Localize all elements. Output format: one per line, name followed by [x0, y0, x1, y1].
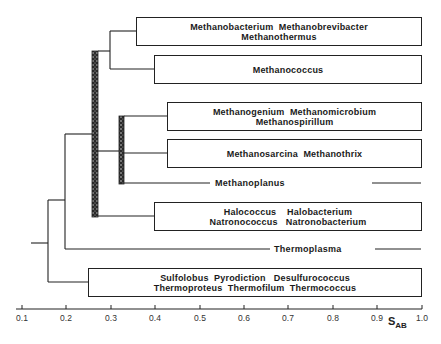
- leaf-label-methanoplanus: Methanoplanus: [211, 178, 289, 188]
- group-label-line: Halococcus Halobacterium: [224, 207, 352, 217]
- group-label-line: Methanothermus: [241, 32, 316, 42]
- group-label-line: Thermoproteus Thermofilum Thermococcus: [154, 283, 357, 293]
- axis-tick-label: 0.4: [149, 313, 161, 323]
- axis-tick-label: 0.1: [16, 313, 28, 323]
- axis-tick-label: 0.7: [282, 313, 294, 323]
- group-label-line: Methanococcus: [253, 65, 324, 75]
- axis-tick-label: 1.0: [416, 313, 428, 323]
- axis-tick-label: 0.5: [194, 313, 206, 323]
- axis-tick-label: 0.6: [238, 313, 250, 323]
- group-box-methanosarcina: Methanosarcina Methanothrix: [167, 139, 422, 168]
- group-box-sulfolobus: Sulfolobus Pyrodiction Desulfurococcus T…: [88, 268, 422, 297]
- axis-tick-label: 0.8: [327, 313, 339, 323]
- axis-title-subscript: AB: [395, 321, 407, 330]
- group-label-line: Natronococcus Natronobacterium: [210, 217, 367, 227]
- group-label-line: Sulfolobus Pyrodiction Desulfurococcus: [160, 273, 350, 283]
- group-box-halophiles: Halococcus Halobacterium Natronococcus N…: [154, 202, 422, 231]
- shaded-range-bar-minor: [119, 116, 124, 184]
- axis-title: SAB: [388, 315, 407, 330]
- group-label-line: Methanosarcina Methanothrix: [227, 149, 363, 159]
- leaf-label-thermoplasma: Thermoplasma: [270, 244, 346, 254]
- group-box-methanococcus: Methanococcus: [154, 55, 422, 84]
- group-box-methanogenium: Methanogenium Methanomicrobium Methanosp…: [167, 102, 422, 131]
- axis-tick-label: 0.9: [371, 313, 383, 323]
- shaded-range-bar-major: [92, 51, 98, 217]
- group-label-line: Methanobacterium Methanobrevibacter: [190, 22, 368, 32]
- group-label-line: Methanospirillum: [256, 117, 334, 127]
- axis-tick-label: 0.2: [60, 313, 72, 323]
- group-box-methanobacteria: Methanobacterium Methanobrevibacter Meth…: [136, 17, 422, 46]
- axis-tick-label: 0.3: [105, 313, 117, 323]
- group-label-line: Methanogenium Methanomicrobium: [213, 107, 376, 117]
